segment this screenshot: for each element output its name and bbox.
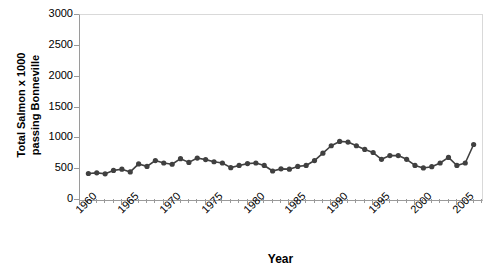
data-point: [253, 160, 258, 165]
x-axis-tick-minor: [397, 199, 398, 203]
data-point: [320, 151, 325, 156]
data-point: [111, 168, 116, 173]
data-point: [220, 160, 225, 165]
y-axis-tick-label: 2000: [13, 69, 73, 81]
data-point: [396, 153, 401, 158]
x-axis-tick-minor: [230, 199, 231, 203]
y-axis-tick-label: 2500: [13, 38, 73, 50]
salmon-line-chart: Total Salmon x 1000 passing Bonneville Y…: [0, 0, 501, 275]
data-point: [144, 164, 149, 169]
data-point: [195, 155, 200, 160]
data-point: [136, 161, 141, 166]
data-point: [404, 157, 409, 162]
data-point: [454, 163, 459, 168]
x-axis-tick-minor: [406, 199, 407, 203]
data-point: [345, 139, 350, 144]
x-axis-tick-minor: [322, 199, 323, 203]
y-axis-tick: [74, 76, 79, 77]
x-axis-tick-minor: [146, 199, 147, 203]
data-point: [312, 158, 317, 163]
y-axis-tick: [74, 168, 79, 169]
data-point: [304, 163, 309, 168]
data-point: [262, 163, 267, 168]
data-point: [228, 165, 233, 170]
y-axis-tick-label: 3000: [13, 7, 73, 19]
x-axis-tick-minor: [364, 199, 365, 203]
x-axis-tick-minor: [104, 199, 105, 203]
data-point: [94, 170, 99, 175]
x-axis-tick-minor: [280, 199, 281, 203]
data-point: [278, 166, 283, 171]
data-point: [245, 161, 250, 166]
data-point: [178, 156, 183, 161]
data-point: [237, 163, 242, 168]
plot-inner: [80, 15, 482, 200]
data-point: [211, 159, 216, 164]
data-point: [354, 143, 359, 148]
data-point: [161, 160, 166, 165]
y-axis-tick-label: 500: [13, 161, 73, 173]
x-axis-tick-minor: [314, 199, 315, 203]
data-series-salmon: [80, 15, 482, 200]
data-point: [438, 160, 443, 165]
data-point: [119, 167, 124, 172]
plot-area: [79, 14, 483, 201]
data-point: [337, 139, 342, 144]
y-axis-tick: [74, 107, 79, 108]
x-axis-tick-minor: [238, 199, 239, 203]
data-point: [170, 162, 175, 167]
x-axis-tick-minor: [154, 199, 155, 203]
y-axis-tick: [74, 14, 79, 15]
x-axis-tick-minor: [272, 199, 273, 203]
data-point: [371, 150, 376, 155]
x-axis-title: Year: [0, 252, 501, 266]
data-point: [186, 160, 191, 165]
x-axis-tick-minor: [439, 199, 440, 203]
x-axis-tick-minor: [481, 199, 482, 203]
data-point: [421, 165, 426, 170]
data-point: [471, 142, 476, 147]
x-axis-tick-minor: [196, 199, 197, 203]
data-point: [153, 158, 158, 163]
data-point: [446, 155, 451, 160]
data-point: [429, 164, 434, 169]
y-axis-tick-label: 0: [13, 192, 73, 204]
y-axis-tick: [74, 45, 79, 46]
data-point: [412, 163, 417, 168]
data-point: [270, 168, 275, 173]
data-point: [379, 157, 384, 162]
data-point: [287, 167, 292, 172]
x-axis-tick-minor: [355, 199, 356, 203]
y-axis-tick-label: 1500: [13, 100, 73, 112]
data-point: [362, 147, 367, 152]
data-point: [203, 157, 208, 162]
data-point: [103, 171, 108, 176]
x-axis-tick-minor: [188, 199, 189, 203]
x-axis-tick-minor: [448, 199, 449, 203]
y-axis-tick-label: 1000: [13, 130, 73, 142]
data-point: [463, 160, 468, 165]
x-axis-tick-minor: [113, 199, 114, 203]
data-point: [128, 169, 133, 174]
data-point: [329, 143, 334, 148]
data-point: [86, 171, 91, 176]
x-axis-tick-label: 1960: [73, 190, 99, 216]
data-point: [295, 164, 300, 169]
data-point: [387, 153, 392, 158]
y-axis-tick: [74, 137, 79, 138]
